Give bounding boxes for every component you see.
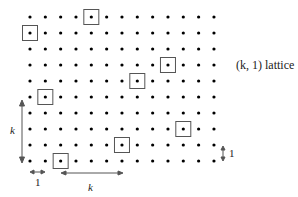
- lattice-point: [44, 111, 47, 114]
- lattice-point: [105, 127, 108, 130]
- lattice-point: [120, 127, 123, 130]
- lattice-point: [74, 95, 77, 98]
- lattice-point: [44, 31, 47, 34]
- lattice-point: [136, 79, 139, 82]
- lattice-point: [166, 159, 169, 162]
- arrowhead-left-icon: [30, 170, 34, 174]
- lattice-point: [105, 159, 108, 162]
- lattice-point: [212, 47, 215, 50]
- lattice-point: [151, 47, 154, 50]
- lattice-point: [197, 47, 200, 50]
- lattice-point: [28, 111, 31, 114]
- lattice-point: [182, 95, 185, 98]
- vertical-1-label: 1: [229, 147, 235, 159]
- lattice-point: [120, 15, 123, 18]
- lattice-point: [28, 127, 31, 130]
- lattice-point: [28, 95, 31, 98]
- lattice-point: [212, 63, 215, 66]
- lattice-point: [151, 127, 154, 130]
- lattice-point: [166, 47, 169, 50]
- lattice-point: [28, 143, 31, 146]
- lattice-point: [197, 31, 200, 34]
- lattice-point: [197, 159, 200, 162]
- lattice-point: [74, 159, 77, 162]
- lattice-point: [28, 159, 31, 162]
- lattice-point: [166, 31, 169, 34]
- lattice-point: [212, 127, 215, 130]
- lattice-point: [28, 15, 31, 18]
- lattice-point: [90, 111, 93, 114]
- lattice-point: [136, 31, 139, 34]
- lattice-point: [136, 63, 139, 66]
- lattice-point: [74, 143, 77, 146]
- lattice-point: [74, 111, 77, 114]
- lattice-point: [59, 111, 62, 114]
- lattice-point: [120, 63, 123, 66]
- lattice-point: [105, 63, 108, 66]
- lattice-point: [212, 111, 215, 114]
- lattice-point: [90, 31, 93, 34]
- lattice-point: [166, 79, 169, 82]
- lattice-point: [166, 63, 169, 66]
- lattice-point: [166, 111, 169, 114]
- lattice-point: [59, 79, 62, 82]
- lattice-point: [197, 15, 200, 18]
- lattice-point: [28, 31, 31, 34]
- lattice-point: [28, 79, 31, 82]
- lattice-point: [120, 95, 123, 98]
- lattice-point: [44, 79, 47, 82]
- lattice-point: [151, 79, 154, 82]
- lattice-point: [105, 111, 108, 114]
- lattice-point: [90, 95, 93, 98]
- lattice-point: [28, 63, 31, 66]
- lattice-point: [59, 95, 62, 98]
- lattice-point: [90, 159, 93, 162]
- lattice-point: [151, 111, 154, 114]
- lattice-point: [120, 159, 123, 162]
- lattice-point: [74, 15, 77, 18]
- lattice-point: [212, 79, 215, 82]
- lattice-point: [136, 95, 139, 98]
- lattice-point: [197, 63, 200, 66]
- lattice-point: [120, 111, 123, 114]
- lattice-point: [44, 63, 47, 66]
- lattice-point: [105, 15, 108, 18]
- lattice-point: [105, 47, 108, 50]
- lattice-point: [197, 95, 200, 98]
- lattice-point: [166, 15, 169, 18]
- lattice-point: [151, 143, 154, 146]
- lattice-point: [44, 127, 47, 130]
- lattice-point: [182, 31, 185, 34]
- lattice-point: [28, 47, 31, 50]
- lattice-point: [74, 31, 77, 34]
- arrowhead-right-icon: [118, 171, 123, 175]
- lattice-diagram: [0, 0, 298, 197]
- lattice-point: [44, 159, 47, 162]
- lattice-point: [90, 63, 93, 66]
- vertical-k-label: k: [10, 124, 15, 136]
- lattice-points: [28, 15, 215, 162]
- lattice-point: [136, 143, 139, 146]
- lattice-point: [44, 143, 47, 146]
- lattice-point: [197, 79, 200, 82]
- lattice-point: [120, 143, 123, 146]
- arrowhead-right-icon: [41, 170, 45, 174]
- horizontal-k-label: k: [88, 181, 93, 193]
- lattice-point: [90, 47, 93, 50]
- lattice-point: [59, 15, 62, 18]
- arrowhead-up-icon: [20, 100, 25, 106]
- lattice-point: [136, 159, 139, 162]
- lattice-point: [151, 159, 154, 162]
- lattice-point: [182, 47, 185, 50]
- lattice-point: [59, 63, 62, 66]
- lattice-point: [74, 63, 77, 66]
- arrowhead-down-icon: [221, 157, 225, 161]
- lattice-point: [197, 111, 200, 114]
- lattice-point: [197, 143, 200, 146]
- lattice-point: [136, 111, 139, 114]
- arrowhead-up-icon: [221, 146, 225, 150]
- lattice-point: [59, 31, 62, 34]
- lattice-point: [44, 95, 47, 98]
- lattice-point: [120, 31, 123, 34]
- horizontal-1-label: 1: [35, 176, 41, 188]
